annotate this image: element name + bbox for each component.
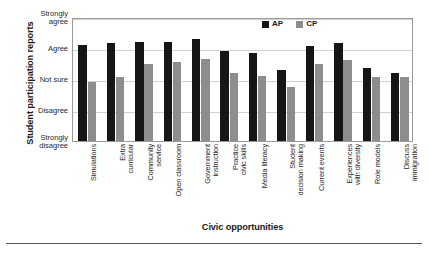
bar-group xyxy=(73,19,101,141)
bars-layer xyxy=(73,19,412,141)
x-tick-line1: Role models xyxy=(373,144,382,184)
bar-cp xyxy=(116,77,124,141)
bar-ap xyxy=(334,43,342,141)
y-axis-tick-label: Disagree xyxy=(16,107,68,115)
x-tick-line2: curricular xyxy=(127,144,135,212)
x-axis-tick-label: Experienceswith diversity xyxy=(346,144,362,212)
chart-figure: Student participation reports Stronglyag… xyxy=(0,0,428,256)
x-tick-line2: service xyxy=(155,144,163,212)
bar-ap xyxy=(220,51,228,141)
bar-group xyxy=(215,19,243,141)
bar-group xyxy=(357,19,385,141)
legend-swatch-cp xyxy=(296,21,303,28)
x-tick-line2: instruction xyxy=(212,144,220,212)
bar-cp xyxy=(400,77,408,141)
bar-group xyxy=(130,19,158,141)
x-tick-line1: Current events xyxy=(317,144,326,191)
x-tick-line1: Media literacy xyxy=(260,144,269,188)
bar-ap xyxy=(249,53,257,141)
x-tick-line1: Open classroom xyxy=(174,144,183,196)
bar-cp xyxy=(287,87,295,141)
bar-cp xyxy=(201,59,209,141)
y-axis-tick-label: Agree xyxy=(16,45,68,53)
x-axis-tick-label: Current events xyxy=(318,144,326,212)
x-axis-tick-label: Studentdecision making xyxy=(289,144,305,212)
x-axis-tick-label: Discussimmigration xyxy=(403,144,419,212)
x-axis-title: Civic opportunities xyxy=(72,222,413,232)
bar-ap xyxy=(391,73,399,141)
bar-ap xyxy=(363,68,371,141)
x-axis-tick-labels: SimulationsExtracurricularCommunityservi… xyxy=(72,144,413,212)
bar-cp xyxy=(88,82,96,141)
y-axis-tick-label: Stronglydisagree xyxy=(16,134,68,151)
x-tick-line2: with diversity xyxy=(354,144,362,212)
x-tick-line2: immigration xyxy=(411,144,419,212)
bar-group xyxy=(329,19,357,141)
bar-cp xyxy=(258,76,266,141)
x-axis-tick-label: Media literacy xyxy=(261,144,269,212)
y-tick-line1: Not sure xyxy=(40,75,68,84)
y-axis-tick-label: Not sure xyxy=(16,76,68,84)
bar-cp xyxy=(372,77,380,141)
x-axis-tick-label: Simulations xyxy=(90,144,98,212)
legend-item-cp: CP xyxy=(296,20,317,28)
bar-group xyxy=(101,19,129,141)
bar-cp xyxy=(315,64,323,142)
y-tick-line1: Disagree xyxy=(38,106,68,115)
bar-ap xyxy=(192,39,200,141)
bottom-divider xyxy=(6,243,422,244)
bar-cp xyxy=(144,64,152,142)
bar-group xyxy=(187,19,215,141)
x-axis-tick-label: Open classroom xyxy=(175,144,183,212)
bar-ap xyxy=(306,46,314,141)
chart-legend: APCP xyxy=(262,20,317,28)
y-axis-tick-label: Stronglyagree xyxy=(16,10,68,27)
y-tick-line2: agree xyxy=(16,18,68,26)
plot-area xyxy=(72,18,413,142)
y-tick-line1: Agree xyxy=(48,44,68,53)
legend-label: AP xyxy=(272,20,283,28)
bar-ap xyxy=(164,42,172,141)
x-axis-tick-label: Role models xyxy=(374,144,382,212)
legend-label: CP xyxy=(306,20,317,28)
x-axis-tick-label: Practicecivic skills xyxy=(232,144,248,212)
bar-cp xyxy=(230,73,238,141)
x-axis-tick-label: Governmentinstruction xyxy=(204,144,220,212)
bar-cp xyxy=(173,62,181,141)
legend-item-ap: AP xyxy=(262,20,283,28)
bar-group xyxy=(244,19,272,141)
bar-ap xyxy=(135,42,143,141)
bar-group xyxy=(272,19,300,141)
x-tick-line2: decision making xyxy=(297,144,305,212)
y-tick-line2: disagree xyxy=(16,142,68,150)
bar-cp xyxy=(343,60,351,141)
x-tick-line2: civic skills xyxy=(240,144,248,212)
x-tick-line1: Simulations xyxy=(89,144,98,181)
bar-group xyxy=(386,19,413,141)
y-axis-tick-labels: StronglyagreeAgreeNot sureDisagreeStrong… xyxy=(16,18,68,142)
legend-swatch-ap xyxy=(262,21,269,28)
bar-ap xyxy=(107,43,115,141)
x-axis-tick-label: Extracurricular xyxy=(119,144,135,212)
bar-ap xyxy=(78,45,86,141)
bar-ap xyxy=(277,70,285,141)
bar-group xyxy=(158,19,186,141)
bar-group xyxy=(300,19,328,141)
x-axis-tick-label: Communityservice xyxy=(147,144,163,212)
